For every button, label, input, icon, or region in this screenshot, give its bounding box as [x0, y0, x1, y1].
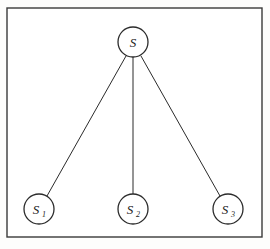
node-label-s1: S: [33, 202, 40, 217]
figure-container: S S 1 S 2 S 3: [0, 0, 270, 249]
node-leaf-s1[interactable]: S 1: [24, 194, 54, 224]
node-subscript-s1: 1: [42, 210, 46, 219]
node-label-s: S: [130, 35, 137, 50]
node-label-s2: S: [127, 202, 134, 217]
node-root-s[interactable]: S: [118, 27, 148, 57]
node-leaf-s2[interactable]: S 2: [118, 194, 148, 224]
diagram-canvas: S S 1 S 2 S 3: [0, 0, 270, 249]
node-label-s3: S: [222, 202, 229, 217]
node-subscript-s3: 3: [230, 210, 235, 219]
node-subscript-s2: 2: [136, 210, 140, 219]
node-leaf-s3[interactable]: S 3: [213, 194, 243, 224]
